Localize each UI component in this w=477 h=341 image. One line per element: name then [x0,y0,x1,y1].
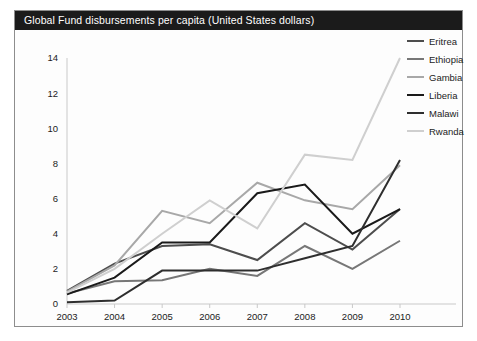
legend-swatch-icon [407,94,424,96]
legend-item-eritrea[interactable]: Eritrea [407,32,477,50]
x-axis-tick-label: 2003 [56,311,77,322]
legend-item-label: Liberia [429,90,458,101]
legend-item-label: Eritrea [429,36,457,47]
legend-item-liberia[interactable]: Liberia [407,86,477,104]
chart-legend: EritreaEthiopiaGambiaLiberiaMalawiRwanda [407,32,477,140]
x-axis-tick-label: 2007 [247,311,268,322]
y-axis-tick-label: 6 [53,193,58,204]
series-line-eritrea [67,209,400,291]
y-axis-tick-label: 4 [53,228,58,239]
legend-item-label: Ethiopia [429,54,463,65]
y-axis-tick-label: 12 [47,88,58,99]
legend-swatch-icon [407,76,424,78]
y-axis-tick-label: 14 [47,52,58,63]
legend-swatch-icon [407,112,424,114]
legend-swatch-icon [407,40,424,42]
legend-item-gambia[interactable]: Gambia [407,68,477,86]
y-axis-tick-label: 10 [47,123,58,134]
x-axis-tick-label: 2005 [152,311,173,322]
chart-svg: 02468101214 2003200420052006200720082009… [15,30,464,327]
x-axis-tick-label: 2008 [294,311,315,322]
legend-item-malawi[interactable]: Malawi [407,104,477,122]
x-axis-tick-label: 2006 [199,311,220,322]
x-axis-tick-label: 2010 [389,311,410,322]
legend-swatch-icon [407,58,424,60]
y-axis-tick-label: 0 [53,298,58,309]
data-series-group [67,58,400,302]
series-line-rwanda [67,58,400,293]
x-axis: 20032004200520062007200820092010 [56,304,456,322]
y-axis-tick-label: 2 [53,263,58,274]
legend-swatch-icon [407,130,424,132]
x-axis-tick-label: 2009 [342,311,363,322]
chart-figure: Global Fund disbursements per capita (Un… [14,10,463,327]
legend-item-rwanda[interactable]: Rwanda [407,122,477,140]
legend-item-ethiopia[interactable]: Ethiopia [407,50,477,68]
legend-item-label: Malawi [429,108,459,119]
legend-item-label: Gambia [429,72,462,83]
x-axis-tick-label: 2004 [104,311,125,322]
series-line-liberia [67,185,400,295]
plot-area: 02468101214 2003200420052006200720082009… [15,30,464,327]
chart-title: Global Fund disbursements per capita (Un… [15,11,462,30]
y-axis-tick-label: 8 [53,158,58,169]
y-axis: 02468101214 [47,52,67,309]
legend-item-label: Rwanda [429,126,464,137]
